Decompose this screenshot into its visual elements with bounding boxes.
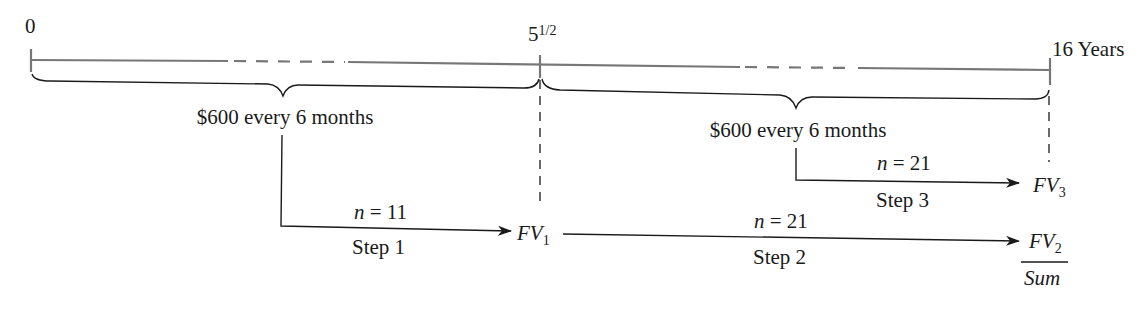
brace-period-1 <box>32 74 539 96</box>
time-label-middle-fraction: 1/2 <box>539 23 557 38</box>
fv1-label: FV1 <box>516 221 550 248</box>
step-3-label: Step 3 <box>876 188 929 212</box>
time-label-middle: 51/2 <box>528 22 556 46</box>
time-label-end: 16 Years <box>1052 37 1124 61</box>
sum-label: Sum <box>1024 266 1060 290</box>
cash-flow-timeline-diagram: 0 51/2 16 Years $600 every 6 months $600… <box>0 0 1146 309</box>
step-2-n: n = 21 <box>754 209 808 233</box>
fv3-label: FV3 <box>1032 173 1066 200</box>
period-2-label: $600 every 6 months <box>710 118 887 142</box>
period-1-label: $600 every 6 months <box>197 105 374 129</box>
step-1-flow: n = 11 Step 1 FV1 <box>281 135 550 259</box>
step-1-n: n = 11 <box>354 200 407 224</box>
time-label-middle-whole: 5 <box>528 22 539 46</box>
brace-period-2 <box>542 79 1049 108</box>
fv2-label: FV2 <box>1028 229 1062 256</box>
step-1-label: Step 1 <box>352 235 405 259</box>
step-2-label: Step 2 <box>753 245 806 269</box>
step-3-flow: n = 21 Step 3 FV3 <box>796 148 1066 212</box>
step-2-flow: n = 21 Step 2 FV2 <box>563 209 1062 269</box>
svg-text:51/2: 51/2 <box>528 22 556 46</box>
time-label-start: 0 <box>25 14 36 38</box>
timeline-axis <box>31 49 1050 85</box>
step-3-n: n = 21 <box>877 151 931 175</box>
